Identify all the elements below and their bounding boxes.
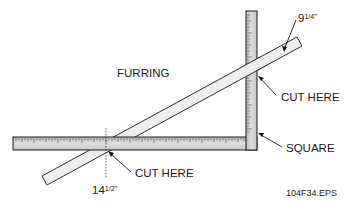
leader-cut-here-lower xyxy=(108,151,131,172)
leader-cut-here-upper xyxy=(258,76,276,95)
square-horizontal-blade xyxy=(13,137,257,150)
furring-label: FURRING xyxy=(117,67,169,79)
cut-here-upper-label: CUT HERE xyxy=(281,91,340,103)
furring-square-diagram: FURRING 91/4" CUT HERE SQUARE CUT HERE 1… xyxy=(0,0,357,208)
cut-here-lower-label: CUT HERE xyxy=(135,167,194,179)
leader-square xyxy=(258,133,282,147)
measure-label-top: 91/4" xyxy=(298,12,317,24)
file-name-label: 104F34.EPS xyxy=(286,188,337,198)
square-vertical-blade xyxy=(246,11,257,150)
square-label: SQUARE xyxy=(286,142,335,154)
measure-label-bottom: 141/2" xyxy=(92,184,118,196)
